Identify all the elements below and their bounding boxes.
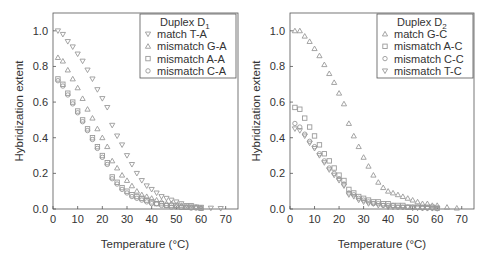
- marker-triangle-down: [65, 40, 70, 45]
- x-tick-label: 40: [146, 213, 158, 225]
- x-tick-label: 30: [121, 213, 133, 225]
- y-tick-label: 0.0: [33, 203, 48, 215]
- marker-square: [293, 105, 297, 109]
- marker-triangle-up: [80, 96, 85, 101]
- marker-triangle-up: [410, 197, 415, 202]
- marker-square: [312, 134, 316, 138]
- marker-triangle-down: [292, 127, 297, 132]
- chart-panel-duplex-d1: 0102030405060700.00.20.40.60.81.0Tempera…: [13, 13, 238, 250]
- marker-triangle-up: [60, 59, 65, 64]
- legend-entry-label: mismatch A-A: [157, 53, 226, 65]
- marker-triangle-down: [80, 59, 85, 64]
- marker-triangle-down: [100, 97, 105, 102]
- legend-entry-label: match T-A: [157, 28, 208, 40]
- legend-title-text: Duplex D: [397, 16, 442, 28]
- y-tick-label: 1.0: [33, 25, 48, 37]
- marker-triangle-up: [356, 144, 361, 149]
- x-tick-label: 30: [357, 213, 369, 225]
- marker-triangle-up: [317, 53, 322, 58]
- x-tick-label: 60: [431, 213, 443, 225]
- marker-square: [298, 107, 302, 111]
- marker-triangle-up: [105, 144, 110, 149]
- legend-entry-label: mismatch G-A: [157, 40, 227, 52]
- marker-triangle-up: [312, 46, 317, 51]
- marker-triangle-down: [124, 154, 129, 159]
- y-tick-label: 0.2: [270, 167, 285, 179]
- legend-entry-label: mismatch T-C: [394, 65, 462, 77]
- marker-triangle-up: [400, 194, 405, 199]
- x-tick-label: 10: [72, 213, 84, 225]
- x-tick-label: 70: [220, 213, 232, 225]
- series-mismatch-a-c: [293, 105, 440, 210]
- marker-triangle-down: [139, 179, 144, 184]
- marker-triangle-up: [119, 173, 124, 178]
- marker-triangle-down: [55, 29, 60, 34]
- marker-triangle-up: [415, 199, 420, 204]
- marker-triangle-down: [75, 52, 80, 57]
- marker-triangle-down: [90, 77, 95, 82]
- x-tick-label: 50: [170, 213, 182, 225]
- marker-triangle-up: [134, 189, 139, 194]
- marker-square: [332, 166, 336, 170]
- legend-title-text: Duplex D: [160, 16, 205, 28]
- marker-triangle-down: [154, 191, 159, 196]
- chart-panel-duplex-d2: 0102030405060700.00.20.40.60.81.0Tempera…: [250, 13, 474, 250]
- marker-triangle-up: [390, 190, 395, 195]
- y-tick-label: 0.8: [33, 60, 48, 72]
- series-mismatch-a-a: [56, 77, 203, 211]
- marker-triangle-up: [100, 135, 105, 140]
- marker-square: [307, 125, 311, 129]
- marker-triangle-up: [351, 133, 356, 138]
- marker-triangle-up: [75, 85, 80, 90]
- chart-figure: 0102030405060700.00.20.40.60.81.0Tempera…: [0, 0, 487, 263]
- marker-square: [317, 143, 321, 147]
- figure: 0102030405060700.00.20.40.60.81.0Tempera…: [0, 0, 487, 263]
- marker-triangle-up: [341, 101, 346, 106]
- marker-triangle-up: [115, 165, 120, 170]
- marker-triangle-up: [55, 55, 60, 60]
- marker-triangle-up: [332, 80, 337, 85]
- marker-triangle-up: [90, 116, 95, 121]
- marker-triangle-down: [208, 206, 213, 211]
- marker-triangle-up: [371, 173, 376, 178]
- x-axis-label: Temperature (°C): [338, 238, 426, 250]
- marker-triangle-up: [405, 196, 410, 201]
- y-axis-label: Hybridization extent: [13, 60, 25, 162]
- legend-entry-label: mismatch A-C: [394, 40, 463, 52]
- y-tick-label: 0.6: [33, 96, 48, 108]
- marker-triangle-up: [444, 205, 449, 210]
- x-tick-label: 20: [333, 213, 345, 225]
- y-tick-label: 0.4: [33, 132, 48, 144]
- marker-triangle-down: [60, 32, 65, 37]
- x-tick-label: 60: [195, 213, 207, 225]
- marker-circle: [293, 121, 297, 125]
- y-tick-label: 0.2: [33, 167, 48, 179]
- marker-triangle-up: [376, 180, 381, 185]
- marker-triangle-up: [129, 183, 134, 188]
- legend-entry-label: match G-C: [394, 28, 447, 40]
- y-tick-label: 0.0: [270, 203, 285, 215]
- marker-triangle-up: [327, 71, 332, 76]
- marker-triangle-up: [110, 158, 115, 163]
- marker-square: [327, 159, 331, 163]
- marker-triangle-down: [105, 105, 110, 110]
- legend: Duplex D1match T-Amismatch G-Amismatch A…: [140, 14, 236, 78]
- marker-triangle-up: [95, 126, 100, 131]
- marker-triangle-down: [115, 134, 120, 139]
- y-tick-label: 1.0: [270, 25, 285, 37]
- marker-triangle-down: [110, 123, 115, 128]
- marker-square: [303, 116, 307, 120]
- marker-triangle-up: [395, 192, 400, 197]
- marker-triangle-down: [119, 143, 124, 148]
- marker-triangle-up: [346, 121, 351, 126]
- marker-triangle-up: [65, 67, 70, 72]
- marker-triangle-up: [381, 185, 386, 190]
- y-axis-label: Hybridization extent: [250, 60, 262, 162]
- x-tick-label: 0: [50, 213, 56, 225]
- marker-triangle-up: [336, 91, 341, 96]
- marker-triangle-up: [70, 76, 75, 81]
- marker-triangle-up: [292, 28, 297, 33]
- marker-triangle-up: [302, 34, 307, 39]
- marker-triangle-up: [366, 164, 371, 169]
- marker-triangle-down: [129, 163, 134, 168]
